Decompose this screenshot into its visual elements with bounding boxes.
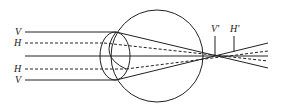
ray-v-top-refracted xyxy=(116,32,268,68)
astigmatism-diagram: V H H V V' H' xyxy=(0,0,285,112)
label-v-top: V xyxy=(15,27,21,37)
label-h-prime: H' xyxy=(230,24,239,34)
optics-drawing xyxy=(0,0,285,112)
label-v-prime: V' xyxy=(211,24,219,34)
ray-v-bottom-refracted xyxy=(116,43,268,80)
label-v-bottom: V xyxy=(15,75,21,85)
ray-h-bottom-refracted xyxy=(126,51,268,69)
label-h-bottom: H xyxy=(14,64,21,74)
label-h-top: H xyxy=(14,38,21,48)
